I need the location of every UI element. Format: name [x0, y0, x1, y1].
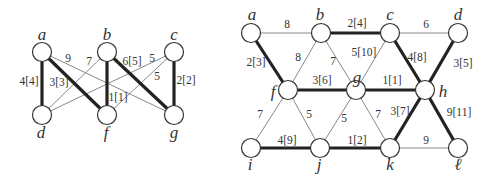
- edge-label: 3[6]: [312, 74, 331, 86]
- graph-canvas: 4[4]3[3]971[1]6[5]552[2]abcdfg 82[4]62[3…: [0, 0, 487, 178]
- node-c: [165, 43, 184, 62]
- edge-label: 8: [295, 51, 301, 63]
- edge-label: 5: [341, 112, 347, 124]
- node-label: i: [248, 155, 253, 174]
- edge-label: 7: [86, 55, 92, 67]
- node-b: [98, 43, 117, 62]
- edge-h-k: [390, 90, 425, 148]
- node-label: g: [353, 68, 362, 87]
- edge-label: 5: [149, 52, 155, 64]
- node-label: a: [248, 5, 257, 24]
- edge-label: 2[3]: [246, 56, 265, 68]
- edge-label: 1[1]: [382, 74, 401, 86]
- edge-label: 7: [257, 108, 263, 120]
- edge-label: 4[8]: [407, 51, 426, 63]
- node-label: c: [386, 5, 394, 24]
- node-label: b: [316, 5, 325, 24]
- edge-label: 5: [306, 108, 312, 120]
- node-h: [416, 81, 435, 100]
- node-d: [449, 24, 468, 43]
- edge-label: 9[11]: [447, 106, 471, 118]
- edge-label: 4[4]: [19, 75, 38, 87]
- right-graph: 82[4]62[3]875[10]4[8]3[5]3[6]1[1]75573[7…: [242, 5, 473, 174]
- edge-label: 9: [65, 52, 71, 64]
- node-a: [242, 24, 261, 43]
- edge-label: 5[10]: [352, 46, 377, 58]
- edge-label: 9: [423, 134, 429, 146]
- node-a: [33, 43, 52, 62]
- node-label: g: [170, 123, 179, 142]
- edge-label: 3[3]: [49, 76, 68, 88]
- node-label: a: [38, 25, 47, 44]
- node-label: d: [37, 123, 46, 142]
- node-label: h: [439, 82, 448, 101]
- edge-label: 8: [284, 18, 290, 30]
- edge-label: 7: [330, 55, 336, 67]
- node-label: c: [170, 25, 178, 44]
- node-g: [165, 106, 184, 125]
- node-label: k: [386, 155, 394, 174]
- edge-label: 3[7]: [390, 105, 409, 117]
- edge-label: 1[2]: [347, 134, 366, 146]
- edge-label: 5: [154, 70, 160, 82]
- edge-label: 2[2]: [176, 74, 195, 86]
- node-label: d: [454, 5, 463, 24]
- edge-label: 6[5]: [122, 55, 141, 67]
- node-label: b: [103, 25, 112, 44]
- edge-label: 7: [375, 108, 381, 120]
- edge-label: 3[5]: [453, 57, 472, 69]
- edge-label: 4[9]: [277, 134, 296, 146]
- node-c: [381, 24, 400, 43]
- node-label: f: [271, 82, 278, 101]
- left-graph: 4[4]3[3]971[1]6[5]552[2]abcdfg: [19, 25, 195, 142]
- node-d: [33, 106, 52, 125]
- edge-label: 6: [423, 18, 429, 30]
- node-b: [312, 24, 331, 43]
- node-f: [98, 106, 117, 125]
- node-label: f: [104, 123, 111, 142]
- node-label: ℓ: [454, 155, 461, 174]
- node-label: j: [315, 155, 322, 174]
- edge-label: 1[1]: [108, 91, 127, 103]
- edge-label: 2[4]: [347, 17, 366, 29]
- node-f: [279, 81, 298, 100]
